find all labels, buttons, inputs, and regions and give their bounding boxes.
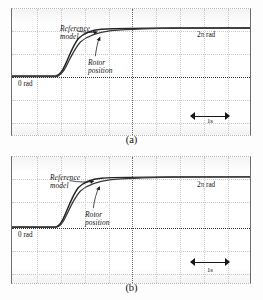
time-scale-bar-a: 1s — [191, 112, 229, 126]
figure-root: Reference model Rotor position 0 rad 2π … — [0, 0, 263, 300]
caption-b: (b) — [0, 282, 263, 293]
label-2pi-rad: 2π rad — [197, 31, 215, 39]
label-rotor-position: Rotor position — [88, 59, 113, 76]
leader-arrow-rotor-icon — [93, 187, 99, 208]
label-rotor-position: Rotor position — [85, 211, 110, 228]
scope-panel-b: Reference model Rotor position 0 rad 2π … — [11, 156, 251, 284]
caption-a: (a) — [0, 134, 263, 145]
scale-line — [191, 262, 229, 263]
arrowhead-rotor-icon — [96, 186, 100, 190]
time-scale-bar-b: 1s — [191, 258, 229, 274]
label-reference-model: Reference model — [60, 25, 90, 42]
scope-screen-a: Reference model Rotor position 0 rad 2π … — [11, 8, 251, 136]
arrowhead-rotor-icon — [97, 37, 101, 41]
label-time-scale: 1s — [191, 117, 229, 124]
label-2pi-rad: 2π rad — [197, 181, 215, 189]
arrow-right-icon — [225, 258, 230, 266]
scope-screen-b: Reference model Rotor position 0 rad 2π … — [11, 156, 251, 284]
label-zero-rad: 0 rad — [18, 231, 33, 239]
label-reference-model: Reference model — [50, 174, 80, 191]
scope-panel-a: Reference model Rotor position 0 rad 2π … — [11, 8, 251, 136]
arrow-left-icon — [190, 258, 195, 266]
label-zero-rad: 0 rad — [18, 80, 33, 88]
arrowhead-reference-icon — [93, 31, 98, 34]
label-time-scale: 1s — [191, 266, 229, 273]
